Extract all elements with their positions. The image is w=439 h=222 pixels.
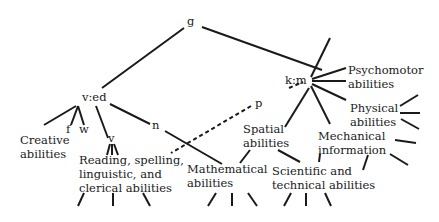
hierarchical-abilities-diagram: g v:ed k:m f w v n p Creative abilities … — [0, 0, 439, 222]
edge-math-leaf-a — [208, 193, 216, 206]
edge-spatial-scientific — [278, 150, 300, 162]
node-km: k:m — [285, 73, 307, 87]
node-w: w — [79, 122, 89, 136]
node-v: v — [108, 131, 115, 145]
edge-km-psychomotor-a — [312, 68, 346, 79]
node-mechanical-information: Mechanical information — [318, 129, 386, 157]
edge-g-ved — [102, 28, 184, 88]
edge-p-reading — [171, 106, 251, 153]
node-g: g — [187, 14, 194, 28]
edge-ved-n — [110, 104, 150, 124]
edge-scientific-leaf-a — [284, 193, 291, 206]
edge-mechanical-leaf-c — [390, 154, 408, 165]
edge-scientific-leaf-c — [325, 193, 331, 206]
edge-g-km — [202, 27, 322, 70]
edge-physical-a — [400, 95, 418, 106]
node-scientific-technical-abilities: Scientific and technical abilities — [272, 164, 375, 192]
node-spatial-abilities: Spatial abilities — [243, 122, 289, 150]
edge-mechanical-leaf-b — [395, 140, 416, 143]
edge-ved-v — [96, 106, 108, 138]
node-psychomotor-abilities: Psychomotor abilities — [348, 63, 423, 91]
node-mathematical-abilities: Mathematical abilities — [187, 162, 268, 190]
node-p: p — [255, 96, 262, 110]
edge-km-up — [311, 38, 330, 77]
edge-physical-c — [401, 119, 419, 129]
node-reading-abilities: Reading, spelling, linguistic, and cleri… — [79, 153, 184, 195]
node-creative-abilities: Creative abilities — [20, 133, 70, 161]
node-ved: v:ed — [82, 90, 107, 104]
edge-math-leaf-c — [248, 193, 257, 206]
node-physical-abilities: Physical abilities — [350, 101, 398, 129]
node-n: n — [152, 118, 159, 132]
